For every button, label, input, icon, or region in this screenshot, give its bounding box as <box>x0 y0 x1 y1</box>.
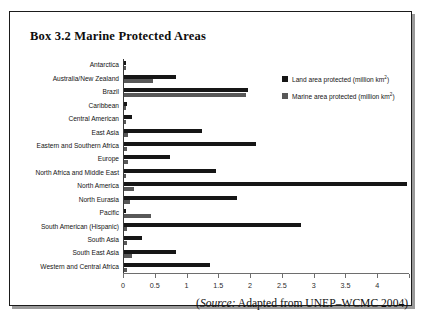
x-tick-label: 0 <box>121 281 125 290</box>
bar-marine <box>124 106 126 110</box>
bar-land <box>124 182 407 186</box>
x-tick <box>218 274 219 278</box>
bar-marine <box>124 79 153 83</box>
x-tick-label: 0.5 <box>150 281 160 290</box>
bar-marine <box>124 147 127 151</box>
category-label: South East Asia <box>72 250 123 257</box>
chart-row: North Eurasia <box>123 193 409 206</box>
chart-row: East Asia <box>123 126 409 139</box>
legend-swatch-icon <box>282 93 288 99</box>
bar-land <box>124 236 142 240</box>
category-label: South American (Hispanic) <box>41 224 123 231</box>
category-label: Europe <box>98 156 123 163</box>
chart-row: South Asia <box>123 234 409 247</box>
bar-marine <box>124 160 128 164</box>
bar-land <box>124 129 202 133</box>
x-tick <box>377 274 378 278</box>
legend-label: Land area protected (million km2) <box>292 75 389 83</box>
bar-land <box>124 263 210 267</box>
category-label: Caribbean <box>89 103 123 110</box>
category-label: Pacific <box>100 210 123 217</box>
bar-land <box>124 250 176 254</box>
x-tick-label: 3 <box>312 281 316 290</box>
bar-marine <box>124 200 130 204</box>
chart-legend: Land area protected (million km2)Marine … <box>282 75 395 109</box>
x-tick <box>282 274 283 278</box>
category-label: Brazil <box>103 89 124 96</box>
bar-marine <box>124 93 246 97</box>
category-label: Western and Central Africa <box>40 264 123 271</box>
chart-row: Western and Central Africa <box>123 261 409 274</box>
category-label: East Asia <box>92 130 124 137</box>
bar-land <box>124 169 216 173</box>
x-tick-label: 2 <box>248 281 252 290</box>
page-canvas: Box 3.2 Marine Protected Areas 00.511.52… <box>0 0 421 317</box>
x-tick-label: 4 <box>375 281 379 290</box>
bar-marine <box>124 174 126 178</box>
bar-land <box>124 88 248 92</box>
x-tick <box>409 274 410 278</box>
bar-marine <box>124 214 151 218</box>
bar-marine <box>124 133 128 137</box>
x-tick-label: 1 <box>185 281 189 290</box>
bar-land <box>124 196 237 200</box>
chart-row: North America <box>123 180 409 193</box>
x-tick <box>250 274 251 278</box>
category-label: Central American <box>68 116 123 123</box>
bar-land <box>124 75 176 79</box>
legend-swatch-icon <box>282 76 288 82</box>
category-label: North America <box>77 183 123 190</box>
category-label: Eastern and Southern Africa <box>37 143 123 150</box>
bar-land <box>124 61 126 65</box>
x-tick-label: 1.5 <box>213 281 223 290</box>
chart-row: Europe <box>123 153 409 166</box>
x-tick <box>314 274 315 278</box>
chart-row: South East Asia <box>123 247 409 260</box>
bar-land <box>124 142 256 146</box>
bar-marine <box>124 187 134 191</box>
bar-land <box>124 209 126 213</box>
source-italic-label: Source: <box>200 297 236 310</box>
category-label: North Eurasia <box>79 197 123 204</box>
bar-marine <box>124 254 132 258</box>
box-title: Box 3.2 Marine Protected Areas <box>30 29 206 44</box>
legend-land: Land area protected (million km2) <box>282 75 395 83</box>
source-caption: (Source: Adapted from UNEP–WCMC 2004) <box>196 297 408 310</box>
source-text: Adapted from UNEP–WCMC 2004) <box>236 297 409 310</box>
chart-row: Antarctica <box>123 59 409 72</box>
bar-land <box>124 115 132 119</box>
x-tick <box>345 274 346 278</box>
legend-label: Marine area protected (million km2) <box>292 92 395 100</box>
x-tick-label: 3.5 <box>340 281 350 290</box>
bar-marine <box>124 227 127 231</box>
bar-land <box>124 155 170 159</box>
chart-row: North Africa and Middle East <box>123 167 409 180</box>
bar-marine <box>124 120 126 124</box>
box-frame: Box 3.2 Marine Protected Areas 00.511.52… <box>9 11 412 306</box>
bar-marine <box>124 241 127 245</box>
category-label: North Africa and Middle East <box>35 170 123 177</box>
bar-marine <box>124 268 127 272</box>
x-tick <box>155 274 156 278</box>
category-label: Antarctica <box>90 62 123 69</box>
bar-marine <box>124 66 126 70</box>
chart-row: Pacific <box>123 207 409 220</box>
chart-row: South American (Hispanic) <box>123 220 409 233</box>
chart-row: Central American <box>123 113 409 126</box>
x-tick-label: 2.5 <box>277 281 287 290</box>
category-label: South Asia <box>87 237 123 244</box>
bar-chart: 00.511.522.533.54 AntarcticaAustralia/Ne… <box>24 56 418 291</box>
x-tick <box>123 274 124 278</box>
legend-marine: Marine area protected (million km2) <box>282 92 395 100</box>
bar-land <box>124 102 127 106</box>
chart-row: Eastern and Southern Africa <box>123 140 409 153</box>
bar-land <box>124 223 301 227</box>
category-label: Australia/New Zealand <box>53 76 123 83</box>
x-tick <box>187 274 188 278</box>
